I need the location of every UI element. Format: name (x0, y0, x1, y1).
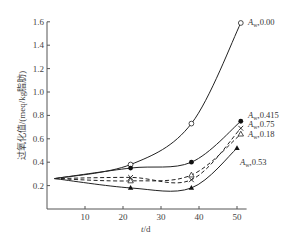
curve-aw-0.53 (55, 148, 237, 191)
curve-aw-0.415 (55, 121, 241, 178)
filled-circle-marker (238, 119, 243, 124)
x-tick-label: 20 (119, 212, 129, 222)
y-tick-label: 1.4 (33, 40, 45, 50)
y-tick-label: 0.8 (33, 110, 45, 120)
filled-triangle-marker (234, 145, 239, 150)
y-tick-label: 1.2 (33, 64, 44, 74)
curve-aw-0.00 (55, 23, 241, 179)
series-curves (55, 23, 241, 191)
x-tick-label: 40 (195, 212, 205, 222)
open-circle-marker (189, 121, 194, 126)
y-axis-title: 过氧化值/(meq/kg脂肪) (16, 71, 27, 160)
series-label: Aw,0.00 (247, 17, 275, 28)
open-circle-marker (238, 21, 243, 26)
series-labels: Aw,0.00Aw,0.415Aw,0.75Aw,0.18Aw,0.53 (239, 17, 279, 168)
cross-marker (238, 126, 243, 131)
x-tick-label: 30 (157, 212, 167, 222)
cross-marker (189, 177, 194, 182)
x-tick-label: 10 (81, 212, 91, 222)
filled-circle-marker (189, 160, 194, 165)
peroxide-value-chart: 0.20.40.60.81.01.21.41.61020304050t/d过氧化… (0, 0, 299, 243)
y-tick-label: 1.6 (33, 17, 45, 27)
y-tick-label: 0.4 (33, 157, 45, 167)
y-tick-label: 1.0 (33, 87, 45, 97)
y-tick-label: 0.6 (33, 134, 45, 144)
x-tick-label: 50 (233, 212, 243, 222)
axes: 0.20.40.60.81.01.21.41.61020304050t/d过氧化… (16, 17, 247, 234)
series-label: Aw,0.18 (247, 129, 275, 140)
filled-circle-marker (128, 166, 133, 171)
x-axis-title: t/d (141, 224, 151, 234)
y-tick-label: 0.2 (33, 181, 44, 191)
series-label: Aw,0.53 (239, 157, 267, 168)
open-triangle-marker (238, 131, 243, 136)
